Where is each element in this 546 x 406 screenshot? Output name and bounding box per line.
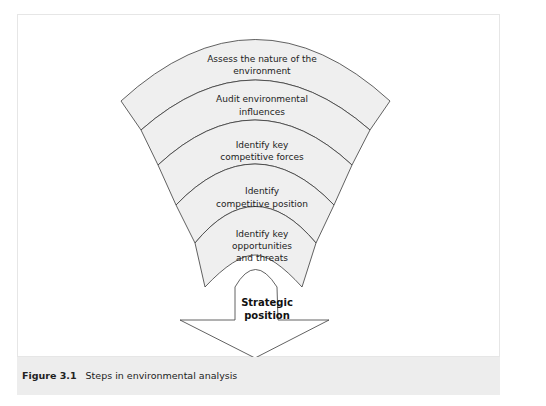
step-1-label-line1: Assess the nature of the	[207, 54, 317, 64]
figure-caption: Figure 3.1Steps in environmental analysi…	[22, 370, 237, 381]
outcome-label-line2: position	[244, 310, 290, 321]
outcome-label-line1: Strategic	[241, 297, 293, 308]
step-5-label-line1: Identify key	[236, 229, 289, 239]
step-3-label-line1: Identify key	[236, 140, 289, 150]
caption-label: Figure 3.1	[22, 370, 77, 381]
caption-text: Steps in environmental analysis	[86, 370, 238, 381]
step-3-label-line2: competitive forces	[220, 152, 304, 162]
step-5-label-line2: opportunities	[232, 241, 292, 251]
step-2-label-line1: Audit environmental	[216, 94, 308, 104]
step-1-label-line2: environment	[233, 66, 291, 76]
step-5-label-line3: and threats	[236, 253, 288, 263]
step-4-label-line1: Identify	[245, 186, 280, 196]
step-2-label-line2: influences	[239, 107, 285, 117]
environmental-analysis-diagram: Assess the nature of the environment Aud…	[0, 0, 546, 406]
step-4-label-line2: competitive position	[216, 199, 308, 209]
